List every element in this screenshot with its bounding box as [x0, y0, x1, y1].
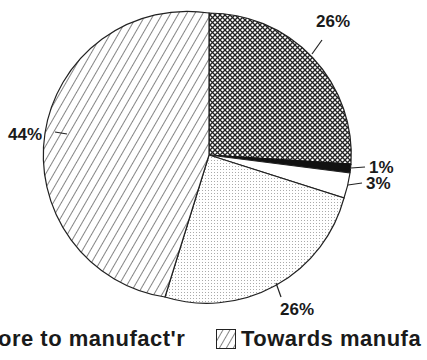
- label-dotted: 26%: [280, 300, 314, 320]
- slice-crosshatch: [209, 13, 351, 164]
- label-diagonal: 44%: [8, 125, 42, 145]
- pie-chart: [0, 0, 427, 330]
- legend-swatch-diagonal: [216, 329, 236, 349]
- legend-item-dotted: ore to manufact'r: [0, 326, 185, 352]
- legend: ore to manufact'r Towards manufa: [0, 326, 427, 360]
- label-white: 3%: [366, 174, 391, 194]
- legend-item-diagonal: Towards manufa: [241, 326, 421, 352]
- label-crosshatch: 26%: [316, 12, 350, 32]
